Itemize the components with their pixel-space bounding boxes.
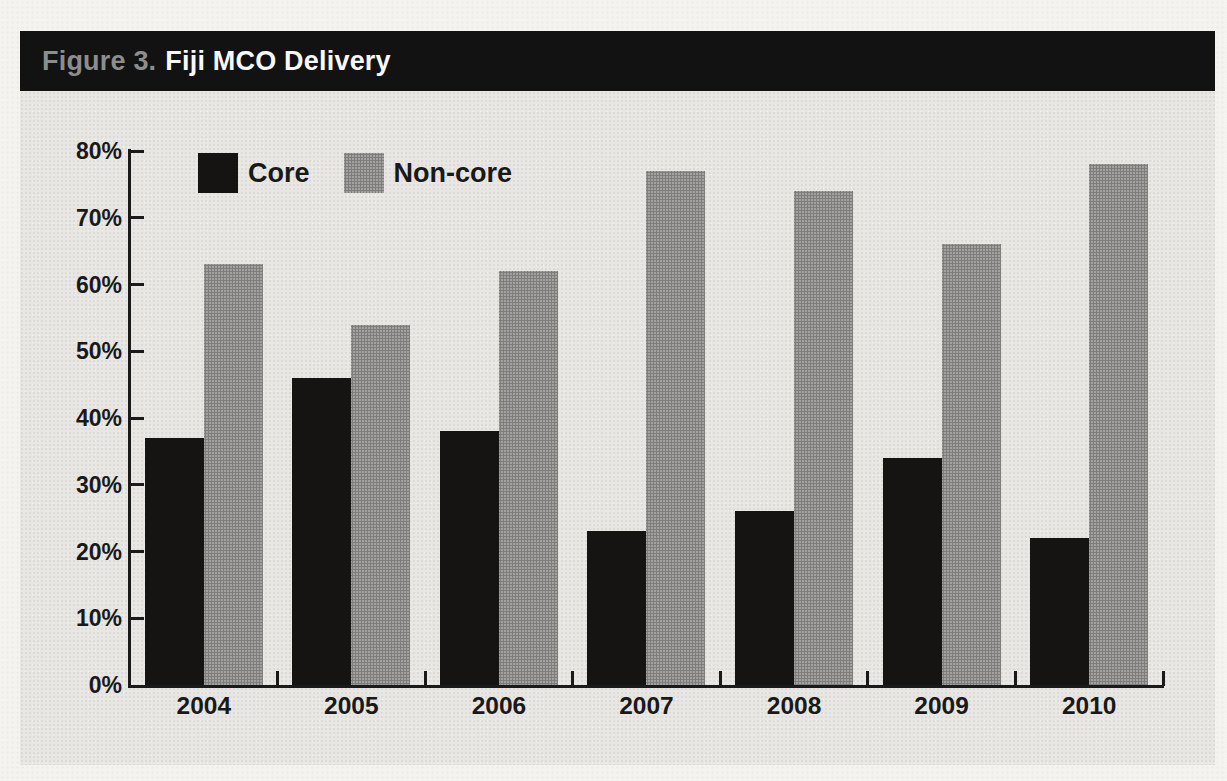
x-axis-label-2008: 2008 (720, 692, 868, 722)
bar-core-2005 (292, 378, 351, 685)
x-axis-label-2005: 2005 (278, 692, 426, 722)
bar-group-2010 (1015, 164, 1163, 685)
x-axis-label-2006: 2006 (425, 692, 573, 722)
legend-swatch-noncore (344, 153, 384, 193)
bar-noncore-2008 (794, 191, 853, 685)
bar-noncore-2009 (942, 244, 1001, 685)
bar-core-2008 (735, 511, 794, 685)
y-tick-label-50%: 50% (38, 337, 122, 365)
y-tick-label-20%: 20% (38, 538, 122, 566)
x-axis-label-2004: 2004 (130, 692, 278, 722)
bar-core-2009 (883, 458, 942, 685)
y-tick-80% (131, 150, 144, 153)
x-axis-label-2010: 2010 (1015, 692, 1163, 722)
bar-core-2007 (587, 531, 646, 685)
chart-legend: CoreNon-core (198, 153, 546, 193)
y-tick-label-70%: 70% (38, 204, 122, 232)
y-tick-label-40%: 40% (38, 404, 122, 432)
bar-core-2006 (440, 431, 499, 685)
bar-noncore-2005 (351, 325, 410, 685)
bar-core-2010 (1030, 538, 1089, 685)
legend-label-noncore: Non-core (394, 158, 513, 189)
y-tick-label-30%: 30% (38, 471, 122, 499)
bar-group-2008 (720, 191, 868, 685)
x-axis-label-2007: 2007 (573, 692, 721, 722)
y-tick-label-60%: 60% (38, 271, 122, 299)
figure-title: Fiji MCO Delivery (165, 46, 390, 77)
bar-group-2009 (868, 244, 1016, 685)
bar-group-2004 (130, 264, 278, 685)
y-tick-label-0%: 0% (38, 671, 122, 699)
chart-panel: CoreNon-core 0%10%20%30%40%50%60%70%80% … (20, 91, 1215, 765)
figure-title-bar: Figure 3. Fiji MCO Delivery (20, 31, 1215, 91)
bar-core-2004 (145, 438, 204, 685)
bar-noncore-2010 (1089, 164, 1148, 685)
bar-group-2005 (278, 325, 426, 685)
x-axis-label-2009: 2009 (868, 692, 1016, 722)
legend-label-core: Core (248, 158, 310, 189)
x-axis-line (128, 685, 1164, 688)
bar-noncore-2007 (646, 171, 705, 685)
bar-noncore-2006 (499, 271, 558, 685)
figure-number-label: Figure 3. (42, 46, 156, 77)
bar-group-2007 (573, 171, 721, 685)
scanned-figure-page: Figure 3. Fiji MCO Delivery CoreNon-core… (0, 0, 1227, 781)
y-tick-label-80%: 80% (38, 137, 122, 165)
y-tick-70% (131, 216, 144, 219)
bar-group-2006 (425, 271, 573, 685)
y-tick-label-10%: 10% (38, 604, 122, 632)
legend-swatch-core (198, 153, 238, 193)
bar-noncore-2004 (204, 264, 263, 685)
